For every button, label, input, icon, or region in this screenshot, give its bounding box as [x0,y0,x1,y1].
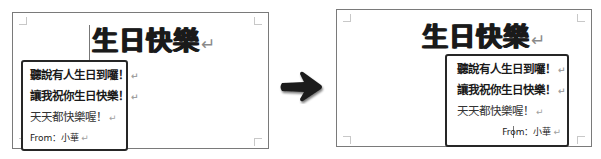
paragraph-mark-icon: ↵ [201,34,216,54]
textbox-line-1: 聽說有人生日到囉！↵ [30,70,139,82]
textbox-after[interactable]: 聽說有人生日到囉！↵ 讓我祝你生日快樂！↵ 天天都快樂喔！↵ From：小華↵ [445,54,569,147]
title-text: 生日快樂 [422,22,530,52]
textbox-line-1: 聽說有人生日到囉！↵ [457,64,566,76]
page-corner-marker [19,17,27,25]
textbox-line-3: 天天都快樂喔！↵ [457,106,544,118]
paragraph-mark-icon: ↵ [531,30,546,50]
textbox-before[interactable]: 聽說有人生日到囉！↵ 讓我祝你生日快樂！↵ 天天都快樂喔！↵ From：小華↵ [21,60,128,151]
arrow-right-icon [278,70,326,104]
paragraph-mark-icon: ↵ [553,127,561,137]
page-corner-marker [343,14,351,22]
paragraph-mark-icon: ↵ [131,92,139,102]
text-cursor [89,25,90,61]
paragraph-mark-icon: ↵ [109,113,117,123]
textbox-line-3: 天天都快樂喔！↵ [30,112,117,124]
document-title[interactable]: 生日快樂↵ [422,24,546,50]
paragraph-mark-icon: ↵ [131,71,139,81]
page-corner-marker [254,138,262,146]
paragraph-mark-icon: ↵ [81,133,89,143]
page-corner-marker [343,136,351,144]
page-corner-marker [577,136,585,144]
paragraph-mark-icon: ↵ [536,107,544,117]
textbox-line-2: 讓我祝你生日快樂！↵ [30,91,139,103]
paragraph-mark-icon: ↵ [558,86,566,96]
textbox-line-from: From：小華↵ [502,128,561,137]
textbox-line-2: 讓我祝你生日快樂！↵ [457,85,566,97]
title-text: 生日快樂 [92,26,200,56]
textbox-line-from: From：小華↵ [30,134,89,143]
paragraph-mark-icon: ↵ [558,65,566,75]
page-corner-marker [577,14,585,22]
document-title[interactable]: 生日快樂↵ [92,28,216,54]
page-corner-marker [254,17,262,25]
